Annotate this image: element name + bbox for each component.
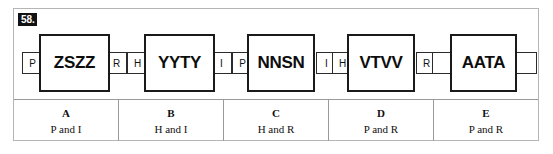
stimulus-group-5-right-box-blank	[516, 52, 537, 74]
stimulus-group-1: P ZSZZ R	[22, 30, 127, 100]
answer-option-a-text: P and I	[51, 121, 82, 137]
stimulus-diagram-area: P ZSZZ R H YYTY I P NNSN I H VTVV R AATA	[14, 30, 538, 100]
answer-option-b-text: H and I	[155, 121, 188, 137]
stimulus-group-2-center-box: YYTY	[144, 34, 215, 92]
answer-option-b-letter: B	[167, 106, 174, 121]
answer-option-d-letter: D	[377, 106, 385, 121]
stimulus-group-1-center-box: ZSZZ	[39, 34, 110, 92]
stimulus-group-2: H YYTY I	[127, 30, 232, 100]
answer-option-a[interactable]: A P and I	[14, 100, 119, 141]
answer-option-c-letter: C	[272, 106, 280, 121]
answer-option-c[interactable]: C H and R	[224, 100, 329, 141]
stimulus-group-5-center-box: AATA	[450, 34, 517, 92]
answer-option-c-text: H and R	[258, 121, 295, 137]
answer-option-e[interactable]: E P and R	[434, 100, 538, 141]
question-number: 58.	[18, 13, 37, 26]
answer-option-a-letter: A	[62, 106, 70, 121]
answer-option-d-text: P and R	[364, 121, 398, 137]
answer-options-row: A P and I B H and I C H and R D P and R …	[14, 99, 538, 141]
stimulus-group-4-center-box: VTVV	[347, 34, 415, 92]
stimulus-group-4: H VTVV R	[332, 30, 437, 100]
answer-option-e-text: P and R	[469, 121, 503, 137]
answer-option-d[interactable]: D P and R	[329, 100, 434, 141]
stimulus-group-3: P NNSN I	[232, 30, 337, 100]
stimulus-group-3-center-box: NNSN	[247, 34, 315, 92]
question-card: 58. P ZSZZ R H YYTY I P NNSN I H VTVV R …	[13, 8, 539, 141]
answer-option-b[interactable]: B H and I	[119, 100, 224, 141]
stimulus-group-5: AATA	[432, 30, 537, 100]
answer-option-e-letter: E	[482, 106, 489, 121]
